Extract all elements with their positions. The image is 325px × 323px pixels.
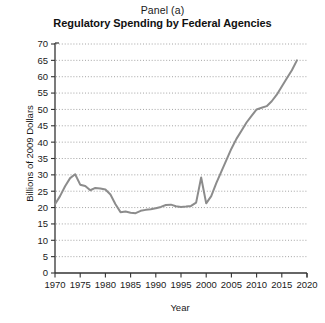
y-tick-label: 0 xyxy=(43,267,48,278)
x-tick-label: 2020 xyxy=(296,279,317,290)
x-tick-label: 2015 xyxy=(271,279,292,290)
x-tick-label: 1990 xyxy=(145,279,166,290)
y-tick-label: 60 xyxy=(37,71,48,82)
y-tick-label: 55 xyxy=(37,87,48,98)
plot-area: 0510152025303540455055606570 19701975198… xyxy=(0,0,325,323)
plot-frame xyxy=(55,43,307,278)
y-tick-label: 50 xyxy=(37,104,48,115)
x-tick-label: 1975 xyxy=(70,279,91,290)
y-tick-label: 30 xyxy=(37,169,48,180)
y-axis-ticks: 0510152025303540455055606570 xyxy=(37,38,55,278)
grid-lines xyxy=(56,44,307,257)
x-tick-label: 1970 xyxy=(44,279,65,290)
y-tick-label: 25 xyxy=(37,186,48,197)
x-axis-ticks: 1970197519801985199019952000200520102015… xyxy=(44,273,317,290)
x-tick-label: 2000 xyxy=(196,279,217,290)
x-tick-label: 1985 xyxy=(120,279,141,290)
series-line xyxy=(55,60,297,213)
y-tick-label: 15 xyxy=(37,218,48,229)
y-tick-label: 20 xyxy=(37,202,48,213)
y-tick-label: 65 xyxy=(37,55,48,66)
y-tick-label: 5 xyxy=(43,251,48,262)
data-series xyxy=(55,60,297,213)
x-tick-label: 2005 xyxy=(221,279,242,290)
x-tick-label: 2010 xyxy=(246,279,267,290)
y-tick-label: 70 xyxy=(37,38,48,49)
chart-figure: Panel (a) Regulatory Spending by Federal… xyxy=(0,0,325,323)
y-tick-label: 10 xyxy=(37,235,48,246)
x-tick-label: 1995 xyxy=(170,279,191,290)
y-tick-label: 40 xyxy=(37,137,48,148)
y-tick-label: 35 xyxy=(37,153,48,164)
x-tick-label: 1980 xyxy=(95,279,116,290)
y-tick-label: 45 xyxy=(37,120,48,131)
